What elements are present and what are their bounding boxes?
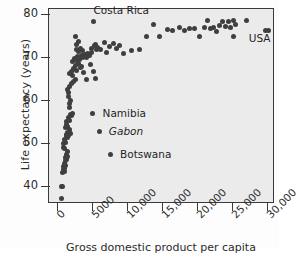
y-tick-label: 40 <box>8 178 38 192</box>
data-point <box>73 34 78 39</box>
data-point <box>68 131 73 136</box>
x-axis-title: Gross domestic product per capita <box>48 241 274 254</box>
data-point <box>226 19 231 24</box>
data-point <box>63 140 68 145</box>
data-point <box>98 47 103 52</box>
data-point <box>88 62 93 67</box>
data-point <box>65 154 70 159</box>
annotation-label: Costa Rica <box>93 4 149 16</box>
data-point <box>214 29 219 34</box>
data-point <box>217 23 222 28</box>
data-point <box>137 47 142 52</box>
data-point <box>121 51 126 56</box>
data-point <box>197 34 202 39</box>
y-tick-mark <box>41 186 50 187</box>
data-point <box>233 22 238 27</box>
y-tick-label: 80 <box>8 6 38 20</box>
y-tick-label: 60 <box>8 92 38 106</box>
data-point <box>67 118 72 123</box>
data-point <box>151 22 156 27</box>
y-tick-mark <box>41 57 50 58</box>
data-point <box>170 28 175 33</box>
data-point <box>205 18 210 23</box>
y-tick-mark <box>41 143 50 144</box>
data-point <box>81 70 86 75</box>
data-point <box>244 18 249 23</box>
data-point <box>157 34 162 39</box>
data-point <box>65 124 70 129</box>
data-point <box>102 40 107 45</box>
data-point <box>223 24 228 29</box>
data-point <box>80 48 85 53</box>
data-point <box>66 94 71 99</box>
y-tick-mark <box>41 14 50 15</box>
data-point <box>220 19 225 24</box>
data-point <box>165 27 170 32</box>
annotation-label: Gabon <box>109 125 143 137</box>
annotation-label: USA <box>249 32 271 44</box>
data-point <box>70 73 75 78</box>
data-point <box>70 111 75 116</box>
y-tick-label: 70 <box>8 49 38 63</box>
data-point <box>60 184 65 189</box>
data-point <box>202 25 207 30</box>
data-point <box>144 34 149 39</box>
data-point <box>104 50 109 55</box>
y-tick-label: 50 <box>8 135 38 149</box>
data-point <box>117 43 122 48</box>
data-point <box>91 69 96 74</box>
annotation-label: Namibia <box>103 107 146 119</box>
data-point <box>63 163 68 168</box>
data-point <box>79 64 84 69</box>
annotation-label: Botswana <box>120 148 171 160</box>
data-point <box>177 25 182 30</box>
data-point <box>111 41 116 46</box>
data-point <box>231 34 236 39</box>
data-point <box>129 48 134 53</box>
data-point <box>192 26 197 31</box>
data-point <box>84 77 89 82</box>
data-point <box>62 146 67 151</box>
data-point <box>93 76 98 81</box>
data-point <box>76 39 81 44</box>
x-tick-label: 0 <box>54 207 67 220</box>
data-point <box>73 77 78 82</box>
plot-area <box>48 8 274 203</box>
data-point <box>59 196 64 201</box>
y-tick-mark <box>41 100 50 101</box>
